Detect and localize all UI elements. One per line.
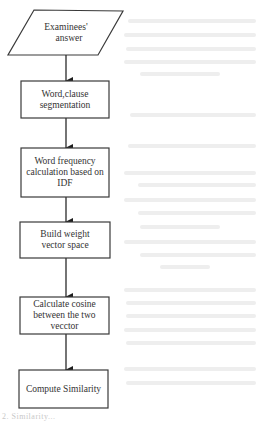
step-label-word-frequency-idf: Word frequency calculation based on IDF xyxy=(22,149,108,196)
input-node-label-line-1: Examinees' xyxy=(44,22,87,33)
input-node-label-line-2: answer xyxy=(50,33,83,44)
flowchart-diagram xyxy=(0,0,258,421)
step-label-build-weight-vector-space: Build weight vector space xyxy=(30,223,100,257)
step-label-calculate-cosine: Calculate cosine between the two vecctor xyxy=(24,298,105,333)
step-label-word-clause-segmentation: Word,clause segmentation xyxy=(30,82,100,117)
figure-caption: 2. Similarity... xyxy=(2,412,55,421)
input-node-label: Examinees' answer xyxy=(26,14,106,52)
step-label-compute-similarity: Compute Similarity xyxy=(20,371,107,407)
